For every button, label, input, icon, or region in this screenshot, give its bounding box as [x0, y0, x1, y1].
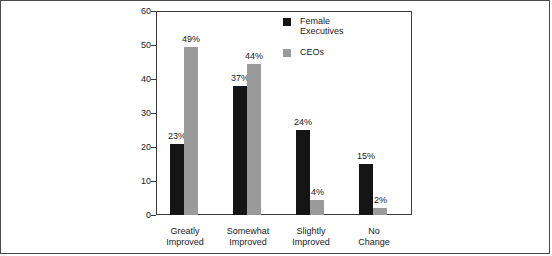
legend-label-female-executives-line2: Executives	[300, 26, 344, 36]
bar-label-ceos-slightly-improved: 4%	[311, 188, 324, 197]
legend-item-ceos[interactable]: CEOs	[283, 48, 383, 70]
x-axis-category-slightly-improved: Slightly Improved	[276, 226, 346, 248]
y-axis-tick-label-20: 20	[129, 143, 151, 152]
bar-female-executives-no-change[interactable]	[359, 164, 373, 215]
y-axis-tick-mark-0	[151, 215, 156, 216]
bar-female-executives-slightly-improved[interactable]	[296, 130, 310, 215]
bar-label-ceos-no-change: 2%	[374, 196, 387, 205]
x-axis-category-no-change-line1: No	[339, 226, 409, 237]
bar-label-ceos-somewhat-improved: 44%	[245, 52, 263, 61]
y-axis-tick-label-60: 60	[129, 7, 151, 16]
x-axis-category-somewhat-improved-line1: Somewhat	[213, 226, 283, 237]
x-axis-category-slightly-improved-line1: Slightly	[276, 226, 346, 237]
legend-label-female-executives: Female Executives	[300, 16, 344, 36]
bar-ceos-somewhat-improved[interactable]	[247, 64, 261, 215]
x-axis-category-slightly-improved-line2: Improved	[276, 237, 346, 248]
bar-ceos-no-change[interactable]	[373, 208, 387, 215]
bar-ceos-greatly-improved[interactable]	[184, 47, 198, 215]
legend-swatch-female-executives-icon	[283, 18, 291, 26]
legend-label-female-executives-line1: Female	[300, 16, 344, 26]
figure-border: 60 50 40 30 20 10 0 23% 49% 37%	[0, 0, 550, 254]
x-axis-category-greatly-improved-line2: Improved	[150, 237, 220, 248]
bar-female-executives-somewhat-improved[interactable]	[233, 86, 247, 215]
legend-item-female-executives[interactable]: Female Executives	[283, 17, 383, 39]
x-axis-category-somewhat-improved: Somewhat Improved	[213, 226, 283, 248]
y-axis-tick-label-50: 50	[129, 41, 151, 50]
bar-group-somewhat-improved-female-executives[interactable]: 37%	[233, 11, 247, 215]
bar-group-somewhat-improved-ceos[interactable]: 44%	[247, 11, 261, 215]
bar-group-greatly-improved-ceos[interactable]: 49%	[184, 11, 198, 215]
legend-swatch-ceos-icon	[283, 49, 291, 57]
y-axis-tick-label-30: 30	[129, 109, 151, 118]
bar-ceos-slightly-improved[interactable]	[310, 200, 324, 215]
bar-label-ceos-greatly-improved: 49%	[182, 35, 200, 44]
y-axis-tick-label-40: 40	[129, 75, 151, 84]
x-axis-category-greatly-improved-line1: Greatly	[150, 226, 220, 237]
x-axis-category-no-change-line2: Change	[339, 237, 409, 248]
bar-female-executives-greatly-improved[interactable]	[170, 144, 184, 215]
x-axis-category-somewhat-improved-line2: Improved	[213, 237, 283, 248]
y-axis-tick-label-0: 0	[129, 211, 151, 220]
legend-label-ceos: CEOs	[300, 47, 324, 57]
x-axis-category-greatly-improved: Greatly Improved	[150, 226, 220, 248]
y-axis-tick-label-10: 10	[129, 177, 151, 186]
legend-label-ceos-line1: CEOs	[300, 47, 324, 57]
legend: Female Executives CEOs	[283, 17, 383, 79]
x-axis-category-no-change: No Change	[339, 226, 409, 248]
